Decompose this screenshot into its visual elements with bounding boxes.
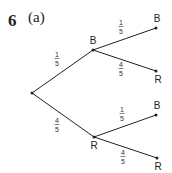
probability-fraction: 45 xyxy=(119,61,124,77)
probability-fraction: 15 xyxy=(55,51,60,67)
outcome-label: B xyxy=(154,100,161,111)
node-dot xyxy=(155,70,158,73)
branch-line xyxy=(94,115,156,137)
svg-text:4: 4 xyxy=(121,149,125,156)
outcome-label: R xyxy=(154,161,161,172)
svg-text:4: 4 xyxy=(55,117,59,124)
probability-tree-figure: 6 (a) B15R45B15R45B15R45 xyxy=(0,0,172,173)
svg-text:4: 4 xyxy=(119,61,123,68)
svg-text:1: 1 xyxy=(119,19,123,26)
outcome-label: R xyxy=(154,74,161,85)
branch-line xyxy=(94,137,157,158)
svg-text:5: 5 xyxy=(120,115,124,122)
node-dot xyxy=(155,114,158,117)
branch-line xyxy=(93,28,156,50)
svg-text:5: 5 xyxy=(119,28,123,35)
probability-fraction: 15 xyxy=(119,19,124,35)
svg-text:5: 5 xyxy=(55,126,59,133)
branch-line xyxy=(32,93,94,137)
node-dot xyxy=(156,157,159,160)
probability-fraction: 45 xyxy=(121,149,126,165)
outcome-label: R xyxy=(90,140,97,151)
branch-line xyxy=(32,50,93,93)
branch-line xyxy=(93,50,156,71)
probability-fraction: 45 xyxy=(55,117,60,133)
tree-diagram: B15R45B15R45B15R45 xyxy=(0,0,172,173)
probability-fraction: 15 xyxy=(120,106,125,122)
outcome-label: B xyxy=(154,13,161,24)
outcome-label: B xyxy=(90,35,97,46)
node-dot xyxy=(155,27,158,30)
svg-text:5: 5 xyxy=(119,70,123,77)
svg-text:1: 1 xyxy=(120,106,124,113)
svg-text:5: 5 xyxy=(121,158,125,165)
svg-text:5: 5 xyxy=(55,60,59,67)
svg-text:1: 1 xyxy=(55,51,59,58)
